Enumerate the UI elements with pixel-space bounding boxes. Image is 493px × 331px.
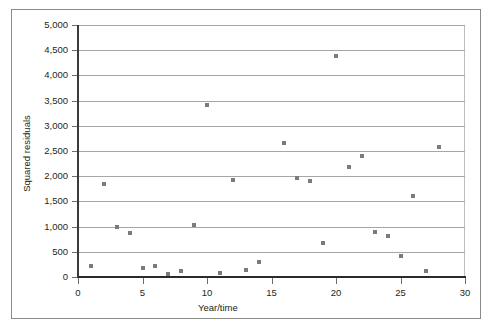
- x-axis-tick-label: 20: [321, 287, 351, 298]
- x-axis-tick: [401, 278, 402, 284]
- y-axis-tick-label: 4,500: [20, 45, 68, 55]
- y-axis-tick-label-text: 1,000: [44, 222, 68, 232]
- x-axis-tick: [336, 278, 337, 284]
- y-axis-tick-label-text: 0: [63, 272, 68, 282]
- y-axis-tick-label: 5,000: [20, 20, 68, 30]
- y-axis-tick-label: 500: [20, 247, 68, 257]
- y-axis-tick-label-text: 500: [52, 247, 68, 257]
- data-point: [218, 271, 222, 275]
- data-point: [115, 225, 119, 229]
- data-point: [373, 230, 377, 234]
- y-axis-tick-label: 1,000: [20, 222, 68, 232]
- data-point: [411, 194, 415, 198]
- x-axis-tick-label: 10: [192, 287, 222, 298]
- plot-area: [78, 25, 465, 277]
- gridline: [78, 75, 465, 76]
- x-axis-tick-label: 25: [386, 287, 416, 298]
- data-point: [257, 260, 261, 264]
- data-point: [321, 241, 325, 245]
- x-axis-tick: [143, 278, 144, 284]
- y-axis-tick-label-text: 2,000: [44, 171, 68, 181]
- data-point: [205, 103, 209, 107]
- gridline: [78, 126, 465, 127]
- x-axis-tick: [272, 278, 273, 284]
- x-axis-tick-label: 0: [63, 287, 93, 298]
- gridline: [78, 101, 465, 102]
- data-point: [360, 154, 364, 158]
- data-point: [179, 269, 183, 273]
- y-axis-line: [77, 25, 79, 278]
- x-axis-tick-label: 15: [257, 287, 287, 298]
- gridline: [78, 252, 465, 253]
- y-axis-title: Squared residuals: [21, 99, 32, 209]
- gridline: [78, 201, 465, 202]
- y-axis-tick-label: 4,000: [20, 70, 68, 80]
- gridline: [78, 227, 465, 228]
- data-point: [89, 264, 93, 268]
- y-axis-tick-label-text: 3,500: [44, 96, 68, 106]
- data-point: [153, 264, 157, 268]
- y-axis-tick-label-text: 5,000: [44, 20, 68, 30]
- x-axis-tick: [465, 278, 466, 284]
- data-point: [231, 178, 235, 182]
- data-point: [295, 176, 299, 180]
- gridline: [78, 176, 465, 177]
- gridline: [78, 151, 465, 152]
- x-axis-tick: [78, 278, 79, 284]
- gridline: [78, 50, 465, 51]
- y-axis-tick-label: 0: [20, 272, 68, 282]
- data-point: [102, 182, 106, 186]
- data-point: [386, 234, 390, 238]
- scatter-chart-figure: 05001,0001,5002,0002,5003,0003,5004,0004…: [0, 0, 493, 331]
- data-point: [192, 223, 196, 227]
- y-axis-tick-label-text: 4,000: [44, 70, 68, 80]
- y-axis-tick-label-text: 4,500: [44, 45, 68, 55]
- data-point: [424, 269, 428, 273]
- data-point: [141, 266, 145, 270]
- chart-plot-wrapper: 05001,0001,5002,0002,5003,0003,5004,0004…: [0, 0, 493, 331]
- data-point: [334, 54, 338, 58]
- data-point: [399, 254, 403, 258]
- x-axis-title: Year/time: [198, 302, 238, 313]
- y-axis-tick-label-text: 1,500: [44, 196, 68, 206]
- data-point: [437, 145, 441, 149]
- x-axis-tick-label: 5: [128, 287, 158, 298]
- x-axis-tick: [207, 278, 208, 284]
- y-axis-tick-label-text: 3,000: [44, 121, 68, 131]
- data-point: [308, 179, 312, 183]
- data-point: [282, 141, 286, 145]
- gridline: [78, 25, 465, 26]
- x-axis-tick-label: 30: [450, 287, 480, 298]
- data-point: [244, 268, 248, 272]
- data-point: [347, 165, 351, 169]
- y-axis-tick-label-text: 2,500: [44, 146, 68, 156]
- data-point: [128, 231, 132, 235]
